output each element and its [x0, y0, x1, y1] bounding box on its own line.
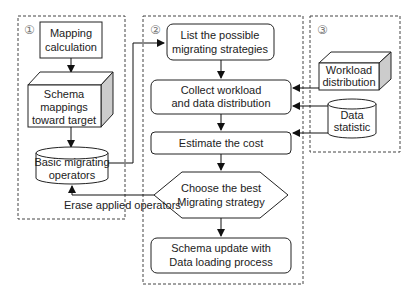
svg-text:Estimate the cost: Estimate the cost [179, 137, 263, 149]
svg-text:Mapping: Mapping [50, 27, 92, 39]
svg-text:and data distribution: and data distribution [171, 97, 270, 109]
svg-text:calculation: calculation [45, 41, 97, 53]
svg-text:mappings: mappings [40, 101, 88, 113]
basic-operators-cylinder: Basic migrating operators [34, 147, 109, 184]
svg-text:Collect workload: Collect workload [181, 84, 262, 96]
erase-operators-label: Erase applied operators [64, 199, 181, 211]
svg-text:Migrating strategy: Migrating strategy [177, 196, 265, 208]
schema-update-box: Schema update with Data loading process [151, 238, 291, 273]
collect-workload-box: Collect workload and data distribution [151, 80, 291, 114]
svg-text:Choose the best: Choose the best [181, 182, 261, 194]
section-3-marker: ③ [317, 23, 328, 37]
estimate-cost-box: Estimate the cost [151, 132, 291, 154]
section-1-marker: ① [24, 23, 35, 37]
svg-text:Workload: Workload [326, 64, 372, 76]
choose-strategy-hexagon: Choose the best Migrating strategy [154, 172, 288, 218]
svg-text:Data: Data [340, 109, 364, 121]
list-strategies-box: List the possible migrating strategies [167, 24, 274, 60]
svg-text:Basic migrating: Basic migrating [34, 156, 109, 168]
svg-text:operators: operators [49, 169, 96, 181]
svg-text:toward target: toward target [32, 114, 96, 126]
svg-text:Data loading process: Data loading process [169, 256, 273, 268]
workload-distribution-cube: Workload distribution [319, 52, 391, 90]
mapping-calculation-box: Mapping calculation [40, 22, 102, 58]
svg-text:distribution: distribution [322, 76, 375, 88]
svg-text:Schema update with: Schema update with [171, 242, 271, 254]
svg-text:List the possible: List the possible [181, 29, 260, 41]
svg-text:migrating strategies: migrating strategies [172, 43, 268, 55]
flow-diagram: ① ② ③ Mapping calculation Schema mapping… [0, 0, 416, 298]
section-2-marker: ② [150, 23, 161, 37]
svg-text:Schema: Schema [44, 88, 85, 100]
data-statistic-cylinder: Data statistic [328, 99, 376, 138]
svg-text:statistic: statistic [334, 121, 371, 133]
schema-mappings-cube: Schema mappings toward target [28, 72, 113, 127]
